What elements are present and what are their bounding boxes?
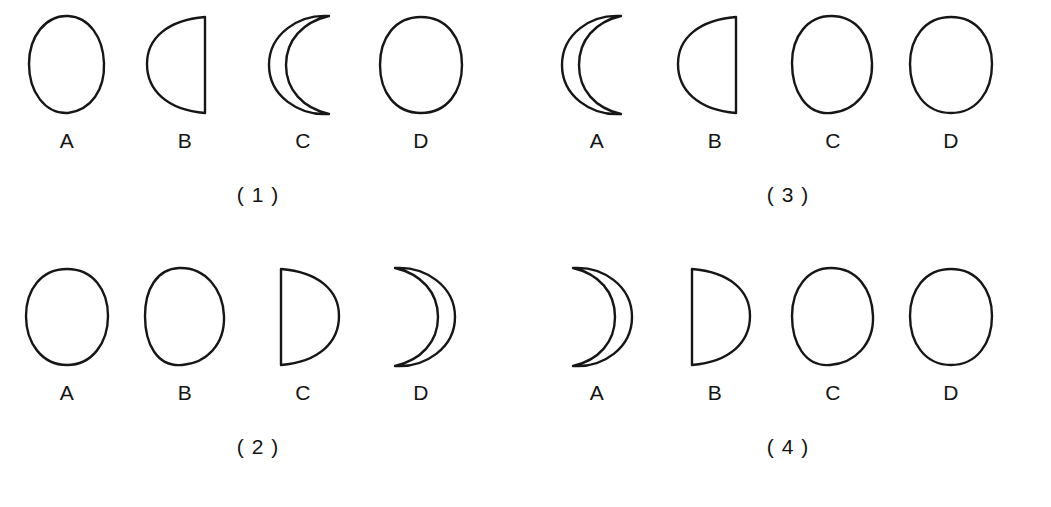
phase-label: C bbox=[825, 130, 841, 151]
phase-cell[interactable]: A bbox=[8, 258, 126, 418]
phase-label: D bbox=[943, 130, 959, 151]
phase-cell[interactable]: A bbox=[538, 6, 656, 166]
crescent-left-icon bbox=[545, 6, 649, 124]
half-moon-left-icon bbox=[133, 6, 237, 124]
phase-cell[interactable]: C bbox=[774, 258, 892, 418]
phase-cell[interactable]: B bbox=[656, 258, 774, 418]
phase-label: A bbox=[590, 130, 605, 151]
phase-cell[interactable]: D bbox=[362, 6, 480, 166]
full-moon-icon bbox=[899, 6, 1003, 124]
group-caption: ( 4 ) bbox=[538, 436, 1051, 457]
phase-label: A bbox=[590, 382, 605, 403]
crescent-right-icon bbox=[369, 258, 473, 376]
phase-group-3: A B C bbox=[538, 6, 1038, 246]
full-moon-icon bbox=[15, 6, 119, 124]
phase-group-4: A B C bbox=[538, 258, 1038, 498]
half-moon-left-icon bbox=[663, 6, 767, 124]
half-moon-right-icon bbox=[251, 258, 355, 376]
phase-cell[interactable]: B bbox=[126, 6, 244, 166]
phase-cell[interactable]: D bbox=[892, 6, 1010, 166]
full-moon-icon bbox=[369, 6, 473, 124]
phase-cell[interactable]: C bbox=[244, 258, 362, 418]
phase-cell[interactable]: C bbox=[244, 6, 362, 166]
phase-group-2: A B C bbox=[8, 258, 508, 498]
group-caption: ( 1 ) bbox=[8, 184, 516, 205]
full-moon-icon bbox=[899, 258, 1003, 376]
phase-label: B bbox=[708, 382, 723, 403]
phase-label: D bbox=[413, 382, 429, 403]
figure-sheet: A B C bbox=[0, 0, 1051, 507]
phase-label: A bbox=[60, 130, 75, 151]
full-moon-icon bbox=[781, 258, 885, 376]
phase-label: B bbox=[708, 130, 723, 151]
phase-label: C bbox=[295, 130, 311, 151]
phase-row: A B C bbox=[538, 258, 1038, 418]
crescent-right-icon bbox=[545, 258, 649, 376]
phase-label: D bbox=[413, 130, 429, 151]
phase-cell[interactable]: C bbox=[774, 6, 892, 166]
phase-label: C bbox=[295, 382, 311, 403]
phase-cell[interactable]: B bbox=[126, 258, 244, 418]
group-caption: ( 3 ) bbox=[538, 184, 1051, 205]
phase-cell[interactable]: D bbox=[892, 258, 1010, 418]
phase-row: A B C bbox=[8, 6, 508, 166]
half-moon-right-icon bbox=[663, 258, 767, 376]
phase-label: A bbox=[60, 382, 75, 403]
full-moon-icon bbox=[133, 258, 237, 376]
phase-label: C bbox=[825, 382, 841, 403]
phase-label: B bbox=[178, 130, 193, 151]
phase-row: A B C bbox=[538, 6, 1038, 166]
full-moon-icon bbox=[15, 258, 119, 376]
phase-cell[interactable]: A bbox=[8, 6, 126, 166]
phase-label: D bbox=[943, 382, 959, 403]
phase-label: B bbox=[178, 382, 193, 403]
group-caption: ( 2 ) bbox=[8, 436, 516, 457]
full-moon-icon bbox=[781, 6, 885, 124]
phase-group-1: A B C bbox=[8, 6, 508, 246]
phase-row: A B C bbox=[8, 258, 508, 418]
phase-cell[interactable]: D bbox=[362, 258, 480, 418]
crescent-left-icon bbox=[251, 6, 355, 124]
phase-cell[interactable]: B bbox=[656, 6, 774, 166]
phase-cell[interactable]: A bbox=[538, 258, 656, 418]
